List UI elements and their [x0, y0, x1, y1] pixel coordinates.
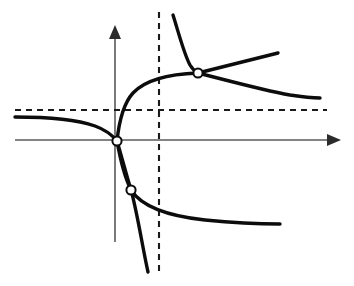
- origin-marker: [112, 136, 121, 145]
- y-axis-arrow-icon: [109, 25, 121, 39]
- lower-intersection-marker: [126, 185, 135, 194]
- figure-canvas: [0, 0, 354, 286]
- curve-lower-right-decaying-branch: [117, 141, 280, 224]
- x-axis-arrow-icon: [327, 134, 341, 146]
- curve-upper-steep-descending-branch: [173, 15, 198, 73]
- curve-left-branch-upper: [15, 117, 117, 141]
- function-graph-svg: [0, 0, 354, 286]
- axes-group: [15, 25, 341, 242]
- curve-upper-rising-line: [198, 53, 278, 73]
- upper-intersection-marker: [193, 68, 202, 77]
- curves-group: [15, 15, 320, 272]
- asymptotes-group: [15, 12, 327, 276]
- curve-rising-branch-to-vertical-asymptote: [117, 73, 198, 141]
- curve-upper-right-decaying-branch: [198, 73, 320, 98]
